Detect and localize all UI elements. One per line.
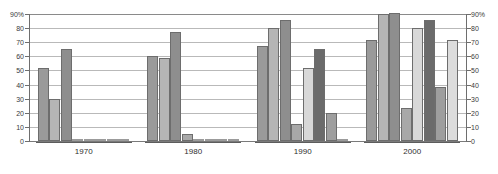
bar: [38, 68, 49, 141]
tick-left-80: [25, 28, 29, 29]
bar: [228, 139, 239, 141]
bar: [424, 20, 435, 141]
y-tick-label-left-60: 60: [0, 53, 24, 60]
x-tick-label-1990: 1990: [248, 147, 358, 156]
y-tick-label-left-50: 50: [0, 67, 24, 74]
tick-left-10: [25, 127, 29, 128]
bar: [193, 139, 204, 141]
bar: [182, 134, 193, 141]
group-baseline-1970: [36, 142, 132, 143]
bar: [49, 99, 60, 141]
y-tick-label-left-90: 90%: [0, 11, 24, 18]
bar: [280, 20, 291, 141]
y-tick-label-right-20: 20: [471, 110, 479, 117]
bar: [159, 58, 170, 141]
bar: [61, 49, 72, 141]
group-baseline-1990: [255, 142, 351, 143]
y-tick-label-right-50: 50: [471, 67, 479, 74]
tick-left-30: [25, 99, 29, 100]
x-tick-label-2000: 2000: [358, 147, 468, 156]
bar: [389, 13, 400, 141]
y-axis-left: [29, 14, 30, 142]
bar: [303, 68, 314, 141]
bar: [412, 28, 423, 141]
y-tick-label-right-40: 40: [471, 82, 479, 89]
bar: [447, 40, 458, 141]
bar: [118, 139, 129, 141]
bar-chart: 001010202030304040505060607070808090%90%…: [0, 0, 498, 174]
y-tick-label-left-20: 20: [0, 110, 24, 117]
y-tick-label-right-70: 70: [471, 39, 479, 46]
tick-left-50: [25, 70, 29, 71]
bar: [401, 108, 412, 141]
group-baseline-1980: [145, 142, 241, 143]
y-tick-label-left-70: 70: [0, 39, 24, 46]
y-tick-label-left-80: 80: [0, 25, 24, 32]
tick-left-60: [25, 56, 29, 57]
y-axis-right: [466, 14, 467, 142]
bar: [337, 139, 348, 141]
x-tick-label-1980: 1980: [139, 147, 249, 156]
bar: [95, 139, 106, 141]
bar: [366, 40, 377, 141]
tick-left-40: [25, 85, 29, 86]
bar-group-1970: [38, 14, 130, 141]
y-tick-label-right-90: 90%: [471, 11, 485, 18]
tick-left-70: [25, 42, 29, 43]
tick-left-20: [25, 113, 29, 114]
y-tick-label-right-10: 10: [471, 124, 479, 131]
y-tick-label-left-30: 30: [0, 96, 24, 103]
bar: [72, 139, 83, 141]
y-tick-label-left-10: 10: [0, 124, 24, 131]
bar-group-1980: [147, 14, 239, 141]
bar: [268, 28, 279, 141]
tick-left-0: [25, 141, 29, 142]
y-tick-label-right-80: 80: [471, 25, 479, 32]
bar: [257, 46, 268, 141]
bar: [147, 56, 158, 141]
plot-area: [29, 14, 467, 141]
bar-group-2000: [366, 14, 458, 141]
tick-left-90: [25, 14, 29, 15]
bar: [326, 113, 337, 141]
bar-group-1990: [257, 14, 349, 141]
y-tick-label-left-40: 40: [0, 82, 24, 89]
y-tick-label-right-30: 30: [471, 96, 479, 103]
y-tick-label-right-0: 0: [471, 138, 475, 145]
bar: [170, 32, 181, 141]
bar: [107, 139, 118, 141]
bar: [84, 139, 95, 141]
y-tick-label-right-60: 60: [471, 53, 479, 60]
group-baseline-2000: [364, 142, 460, 143]
bar: [216, 139, 227, 141]
x-tick-label-1970: 1970: [29, 147, 139, 156]
bar: [378, 14, 389, 141]
bar: [291, 124, 302, 141]
y-tick-label-left-0: 0: [0, 138, 24, 145]
bar: [435, 87, 446, 141]
bar: [205, 139, 216, 141]
bar: [314, 49, 325, 141]
